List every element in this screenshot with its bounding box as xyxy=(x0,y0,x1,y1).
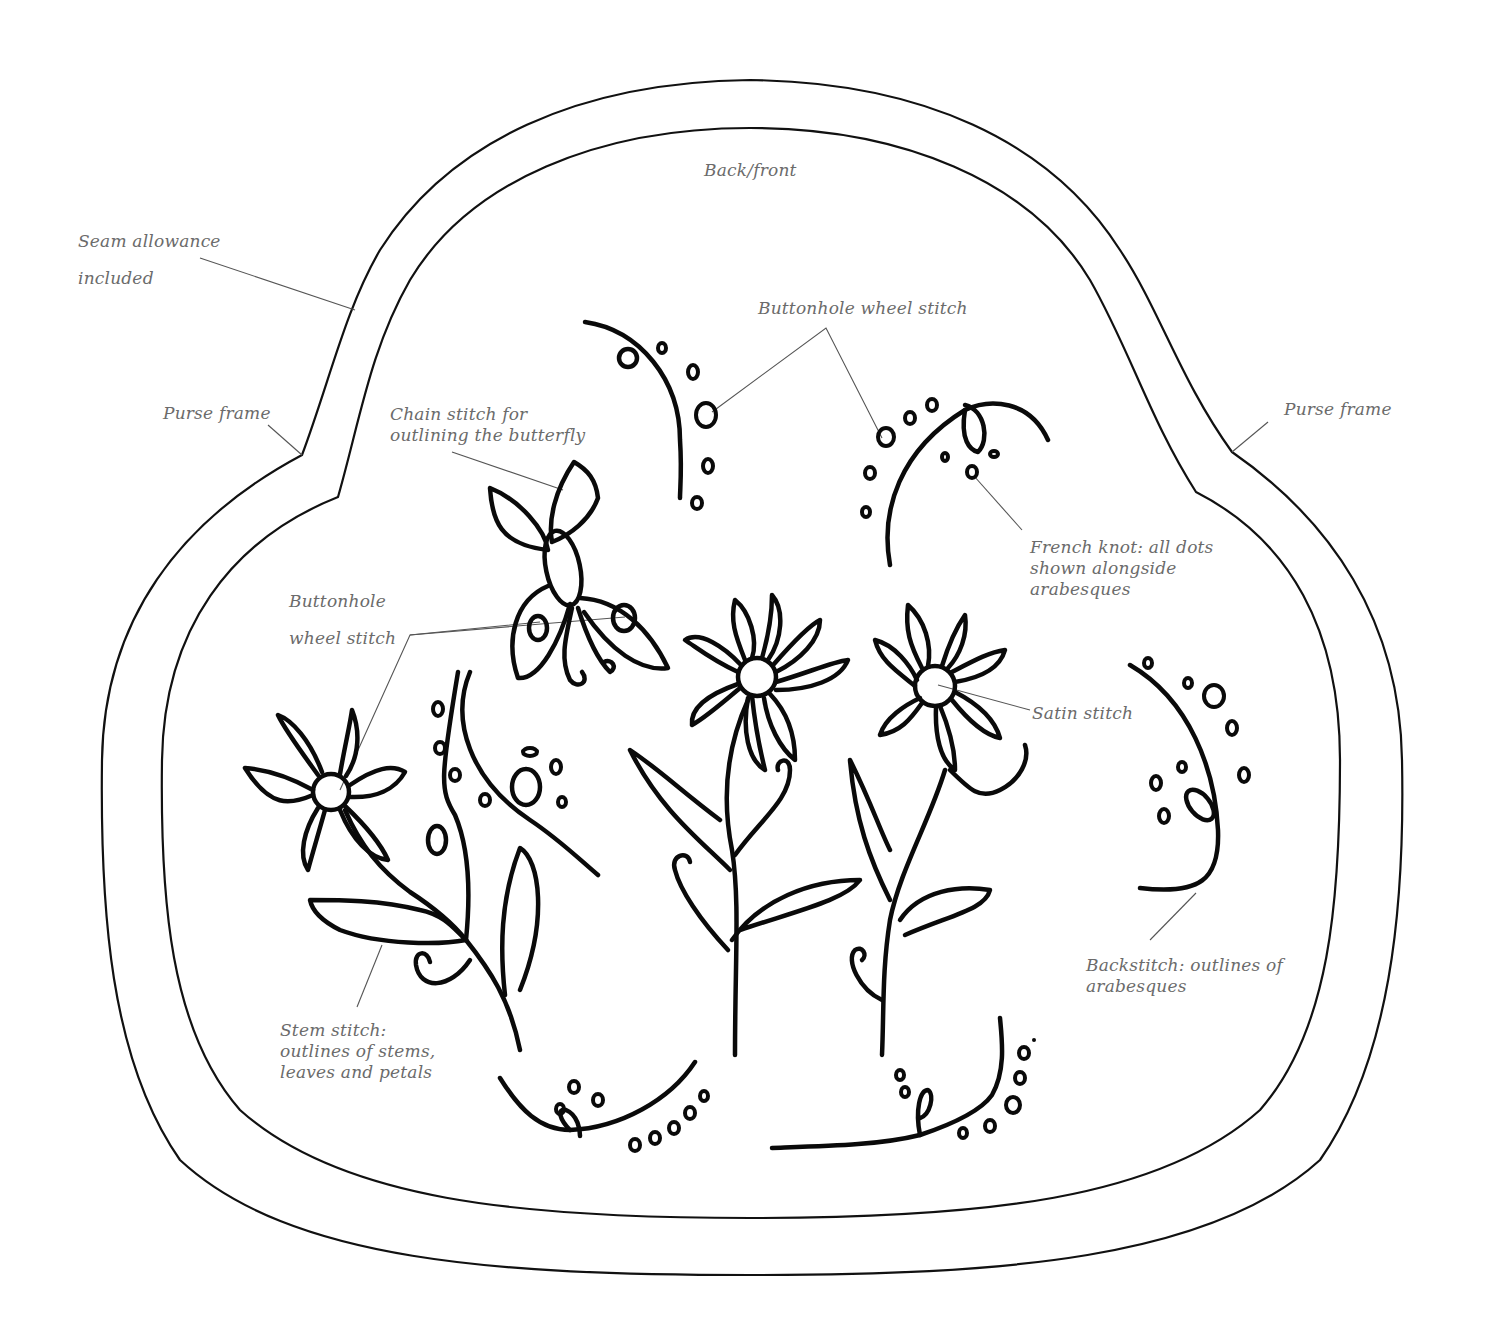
stem-stitch-label: Stem stitch: outlines of stems, leaves a… xyxy=(280,1020,435,1083)
back-front-label: Back/front xyxy=(704,160,797,181)
arabesque-right-motif xyxy=(1130,658,1249,890)
arabesque-bottom-right-motif xyxy=(772,1018,1036,1148)
flower-right-motif xyxy=(850,605,1026,1055)
arabesque-top-right-motif xyxy=(862,399,1048,565)
buttonhole-wheel-left-label: Buttonhole wheel stitch xyxy=(289,583,396,657)
seam-allowance-label: Seam allowance included xyxy=(78,223,221,297)
backstitch-label: Backstitch: outlines of arabesques xyxy=(1086,955,1283,997)
butterfly-motif xyxy=(490,462,668,685)
french-knot-label: French knot: all dots shown alongside ar… xyxy=(1030,537,1214,600)
satin-stitch-label: Satin stitch xyxy=(1032,703,1133,724)
purse-frame-left-label: Purse frame xyxy=(163,403,271,424)
purse-pattern-diagram xyxy=(0,0,1498,1332)
arabesque-top-left-motif xyxy=(585,322,716,509)
flower-left-motif xyxy=(245,672,538,1050)
buttonhole-wheel-top-label: Buttonhole wheel stitch xyxy=(758,298,968,319)
chain-stitch-label: Chain stitch for outlining the butterfly xyxy=(390,404,585,446)
arabesque-bottom-left-motif xyxy=(500,1062,708,1151)
purse-frame-right-label: Purse frame xyxy=(1284,399,1392,420)
arabesque-middle-left-motif xyxy=(433,672,598,875)
seam-allowance-outline xyxy=(102,80,1403,1275)
